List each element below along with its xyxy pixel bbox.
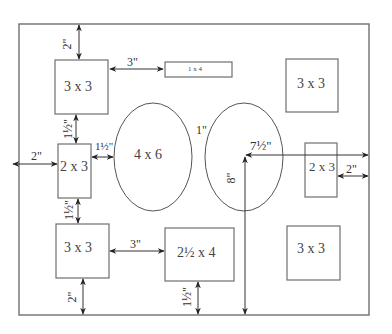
dim-oval-gap: 1" (196, 124, 207, 136)
label-top-left-square: 3 x 3 (64, 80, 92, 94)
label-bottom-center-rect: 2½ x 4 (177, 246, 216, 260)
dim-left-rect-to-bottom-square: 1½" (63, 200, 75, 220)
label-top-right-square: 3 x 3 (297, 77, 325, 91)
dim-center-vertical: 8" (225, 173, 237, 184)
dim-center-horizontal: 7½" (250, 139, 272, 152)
dim-right-margin: 2" (346, 163, 357, 175)
frame-layout-diagram: 3 x 3 1 x 4 3 x 3 2 x 3 4 x 6 2 x 3 3 x … (0, 0, 392, 334)
dim-bottom-left-margin: 2" (66, 292, 78, 303)
dim-left-margin: 2" (31, 150, 42, 162)
label-bottom-right-square: 3 x 3 (297, 242, 325, 256)
dim-left-rect-to-oval: 1½" (95, 141, 113, 152)
dim-square-to-left-rect: 1½" (62, 119, 74, 139)
opening-right-oval (205, 103, 283, 211)
dim-bottom-square-to-rect: 3" (130, 238, 141, 250)
label-bottom-left-square: 3 x 3 (64, 241, 92, 255)
dim-square-to-strip: 3" (127, 56, 138, 68)
label-left-rect: 2 x 3 (60, 160, 88, 174)
dim-top-margin: 2" (61, 39, 73, 50)
label-right-rect: 2 x 3 (309, 160, 335, 173)
label-top-center-strip: 1 x 4 (188, 66, 202, 73)
dim-bottom-center-margin: 1½" (181, 287, 193, 307)
label-left-oval: 4 x 6 (134, 148, 162, 162)
